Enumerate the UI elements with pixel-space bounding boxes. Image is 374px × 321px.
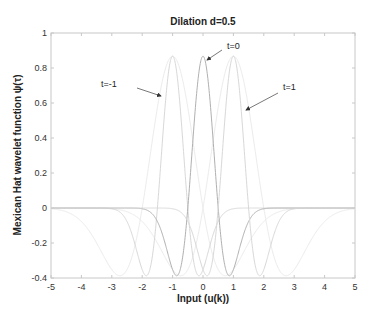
x-tick-label: 2 (261, 282, 266, 292)
x-axis-label: Input (u(k)) (177, 293, 229, 304)
y-tick-label: -0.4 (31, 273, 47, 283)
annotation-label: t=-1 (101, 79, 117, 89)
y-tick-label: 1 (42, 28, 47, 38)
y-tick-label: 0.8 (34, 63, 47, 73)
x-tick-label: -5 (47, 282, 55, 292)
x-tick-label: -1 (169, 282, 177, 292)
y-tick-label: 0.6 (34, 98, 47, 108)
x-tick-label: 0 (200, 282, 205, 292)
x-tick-label: -3 (108, 282, 116, 292)
x-tick-label: 3 (292, 282, 297, 292)
y-tick-label: 0.2 (34, 168, 47, 178)
plot-area (51, 33, 355, 278)
wavelet-chart: Dilation d=0.5 -5-4-3-2-1012345 -0.4-0.2… (0, 0, 374, 321)
annotation-label: t=1 (283, 82, 296, 92)
chart-title: Dilation d=0.5 (170, 16, 236, 27)
x-tick-label: 1 (231, 282, 236, 292)
x-tick-label: -2 (138, 282, 146, 292)
y-tick-label: 0 (42, 203, 47, 213)
annotation-label: t=0 (227, 41, 240, 51)
x-tick-label: 4 (322, 282, 327, 292)
y-axis-label: Mexican Hat wavelet function ψ(τ) (12, 75, 23, 236)
x-tick-label: -4 (77, 282, 85, 292)
x-tick-label: 5 (352, 282, 357, 292)
y-tick-label: 0.4 (34, 133, 47, 143)
y-tick-label: -0.2 (31, 238, 47, 248)
